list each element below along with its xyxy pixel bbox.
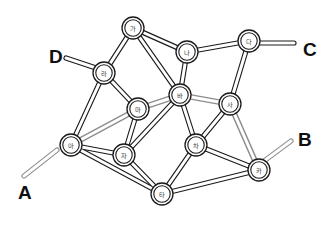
node-inner-ring-ga xyxy=(125,20,141,36)
node-inner-ring-a xyxy=(63,137,79,153)
node-na[interactable]: 나 xyxy=(176,41,198,63)
node-ja[interactable]: 자 xyxy=(113,144,135,166)
node-ba[interactable]: 바 xyxy=(169,84,191,106)
node-da[interactable]: 다 xyxy=(238,30,260,52)
graph-svg: 가나다라마바사아자차카타 xyxy=(0,0,328,225)
terminal-stub-inner-a xyxy=(24,150,57,176)
node-inner-ring-ma xyxy=(130,101,146,117)
node-inner-ring-sa xyxy=(222,96,238,112)
node-a[interactable]: 아 xyxy=(60,134,82,156)
node-inner-ring-ka xyxy=(251,162,267,178)
node-ka[interactable]: 카 xyxy=(248,159,270,181)
terminal-label-a: A xyxy=(18,183,32,202)
node-inner-ring-ja xyxy=(116,147,132,163)
terminal-label-b: B xyxy=(298,130,312,149)
node-inner-ring-da xyxy=(241,33,257,49)
node-sa[interactable]: 사 xyxy=(219,93,241,115)
node-ra[interactable]: 라 xyxy=(93,62,115,84)
terminal-label-d: D xyxy=(49,47,63,66)
node-inner-ring-na xyxy=(179,44,195,60)
node-cha[interactable]: 차 xyxy=(185,134,207,156)
terminal-label-c: C xyxy=(303,40,317,59)
diagram-canvas: 가나다라마바사아자차카타 A B C D xyxy=(0,0,328,225)
node-inner-ring-cha xyxy=(188,137,204,153)
node-ga[interactable]: 가 xyxy=(122,17,144,39)
node-inner-ring-ba xyxy=(172,87,188,103)
node-inner-ring-ta xyxy=(154,186,170,202)
node-ta[interactable]: 타 xyxy=(151,183,173,205)
node-ma[interactable]: 마 xyxy=(127,98,149,120)
node-inner-ring-ra xyxy=(96,65,112,81)
